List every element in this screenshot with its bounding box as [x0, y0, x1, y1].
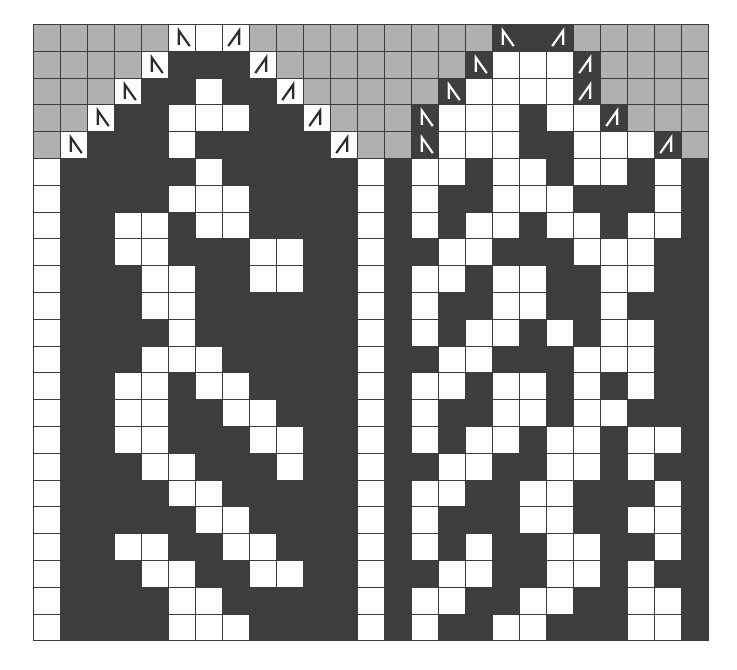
cell-dark-stitch: [88, 534, 115, 561]
cell-light-stitch: [223, 105, 250, 132]
cell-dark-stitch: [682, 373, 709, 400]
cell-no-stitch: [358, 25, 385, 52]
cell-no-stitch: [412, 25, 439, 52]
cell-no-stitch: [466, 25, 493, 52]
cell-dark-stitch: [601, 373, 628, 400]
cell-light-stitch: [628, 132, 655, 159]
cell-dark-stitch: [331, 614, 358, 641]
chart-row: [34, 480, 709, 507]
cell-dark-stitch: [61, 507, 88, 534]
cell-dark-stitch: [385, 373, 412, 400]
cell-dark-stitch: [304, 480, 331, 507]
cell-right-leaning-decrease: [655, 132, 682, 159]
cell-dark-stitch: [385, 400, 412, 427]
cell-light-stitch: [628, 507, 655, 534]
cell-light-stitch: [169, 453, 196, 480]
cell-right-leaning-decrease: [331, 132, 358, 159]
cell-light-stitch: [412, 426, 439, 453]
cell-light-stitch: [520, 480, 547, 507]
cell-dark-stitch: [655, 560, 682, 587]
cell-dark-stitch: [115, 560, 142, 587]
cell-dark-stitch: [250, 507, 277, 534]
cell-dark-stitch: [439, 212, 466, 239]
cell-light-stitch: [358, 400, 385, 427]
cell-dark-stitch: [655, 319, 682, 346]
cell-no-stitch: [358, 132, 385, 159]
cell-dark-stitch: [250, 319, 277, 346]
cell-dark-stitch: [61, 373, 88, 400]
cell-dark-stitch: [466, 266, 493, 293]
cell-dark-stitch: [439, 507, 466, 534]
cell-dark-stitch: [547, 373, 574, 400]
cell-dark-stitch: [682, 614, 709, 641]
cell-dark-stitch: [142, 507, 169, 534]
cell-dark-stitch: [331, 426, 358, 453]
cell-light-stitch: [142, 373, 169, 400]
cell-dark-stitch: [331, 373, 358, 400]
cell-no-stitch: [331, 25, 358, 52]
cell-light-stitch: [574, 453, 601, 480]
cell-light-stitch: [358, 239, 385, 266]
cell-light-stitch: [277, 453, 304, 480]
cell-dark-stitch: [466, 587, 493, 614]
cell-dark-stitch: [385, 614, 412, 641]
cell-dark-stitch: [304, 292, 331, 319]
cell-dark-stitch: [88, 453, 115, 480]
cell-dark-stitch: [682, 507, 709, 534]
cell-light-stitch: [493, 158, 520, 185]
cell-dark-stitch: [466, 507, 493, 534]
cell-light-stitch: [547, 78, 574, 105]
cell-light-stitch: [115, 239, 142, 266]
cell-dark-stitch: [331, 185, 358, 212]
cell-dark-stitch: [601, 185, 628, 212]
cell-light-stitch: [574, 426, 601, 453]
right-leaning-decrease-icon: [655, 132, 681, 158]
cell-dark-stitch: [682, 292, 709, 319]
knitting-chart-container: [33, 24, 708, 641]
cell-dark-stitch: [142, 158, 169, 185]
cell-dark-stitch: [547, 292, 574, 319]
cell-no-stitch: [88, 78, 115, 105]
cell-light-stitch: [547, 453, 574, 480]
cell-dark-stitch: [88, 373, 115, 400]
cell-dark-stitch: [277, 105, 304, 132]
cell-light-stitch: [655, 507, 682, 534]
cell-dark-stitch: [169, 534, 196, 561]
cell-dark-stitch: [412, 239, 439, 266]
cell-dark-stitch: [547, 346, 574, 373]
cell-light-stitch: [223, 534, 250, 561]
cell-dark-stitch: [385, 480, 412, 507]
cell-dark-stitch: [574, 266, 601, 293]
cell-light-stitch: [466, 534, 493, 561]
cell-dark-stitch: [277, 158, 304, 185]
cell-no-stitch: [655, 78, 682, 105]
cell-no-stitch: [88, 51, 115, 78]
cell-light-stitch: [169, 587, 196, 614]
cell-dark-stitch: [520, 534, 547, 561]
cell-light-stitch: [412, 319, 439, 346]
cell-light-stitch: [493, 426, 520, 453]
cell-dark-stitch: [169, 373, 196, 400]
cell-dark-stitch: [61, 426, 88, 453]
cell-left-leaning-decrease: [439, 78, 466, 105]
cell-light-stitch: [601, 239, 628, 266]
cell-light-stitch: [358, 507, 385, 534]
cell-dark-stitch: [547, 614, 574, 641]
cell-light-stitch: [628, 239, 655, 266]
cell-dark-stitch: [61, 587, 88, 614]
cell-dark-stitch: [250, 158, 277, 185]
cell-light-stitch: [439, 132, 466, 159]
cell-dark-stitch: [466, 373, 493, 400]
cell-light-stitch: [547, 560, 574, 587]
right-leaning-decrease-icon: [304, 105, 330, 131]
cell-light-stitch: [466, 239, 493, 266]
cell-dark-stitch: [277, 534, 304, 561]
right-leaning-decrease-icon: [574, 52, 600, 78]
cell-dark-stitch: [142, 185, 169, 212]
cell-dark-stitch: [331, 587, 358, 614]
chart-row: [34, 587, 709, 614]
cell-dark-stitch: [628, 480, 655, 507]
cell-light-stitch: [439, 453, 466, 480]
cell-light-stitch: [520, 158, 547, 185]
cell-light-stitch: [277, 239, 304, 266]
